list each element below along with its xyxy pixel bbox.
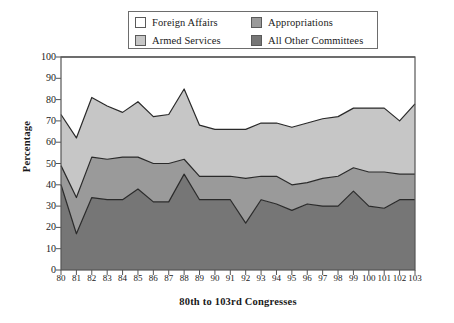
- y-axis-title: Percentage: [21, 87, 32, 207]
- y-tick-label: 80: [32, 95, 56, 105]
- y-tick-label: 30: [32, 201, 56, 211]
- x-axis-title: 80th to 103rd Congresses: [61, 296, 415, 307]
- y-tick-label: 100: [32, 52, 56, 62]
- y-tick-label: 60: [32, 137, 56, 147]
- stacked-area-chart-figure: Foreign Affairs Appropriations Armed Ser…: [0, 0, 454, 323]
- y-tick-label: 10: [32, 244, 56, 254]
- y-tick-label: 90: [32, 73, 56, 83]
- x-tick-label: 103: [404, 273, 426, 283]
- y-tick-label: 70: [32, 116, 56, 126]
- y-tick-label: 20: [32, 222, 56, 232]
- stacked-areas-group: [61, 57, 415, 270]
- y-tick-label: 40: [32, 180, 56, 190]
- y-tick-label: 50: [32, 159, 56, 169]
